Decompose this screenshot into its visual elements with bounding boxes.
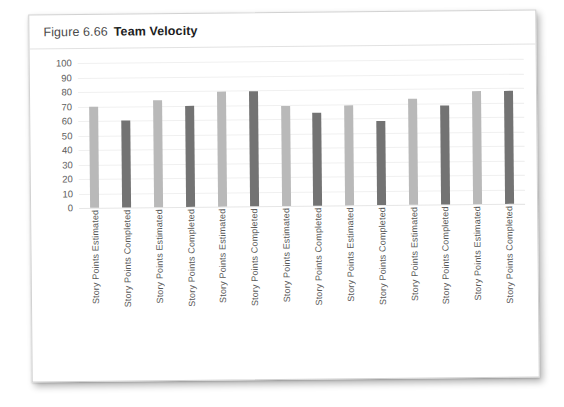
x-axis-label: Story Points Estimated xyxy=(90,210,101,304)
x-axis-labels: Story Points EstimatedStory Points Compl… xyxy=(79,206,526,360)
figure-caption-bar: Figure 6.66 Team Velocity xyxy=(29,11,535,50)
x-axis-label: Story Points Completed xyxy=(313,208,324,306)
x-label-slot: Story Points Estimated xyxy=(270,208,303,358)
x-axis-label: Story Points Estimated xyxy=(217,209,228,303)
bar[interactable] xyxy=(122,120,132,207)
y-axis-tick: 60 xyxy=(38,116,72,126)
bar-slot xyxy=(269,61,302,206)
y-axis-tick: 50 xyxy=(38,131,72,141)
y-axis-tick: 30 xyxy=(39,160,73,170)
x-axis-label: Story Points Estimated xyxy=(345,207,356,301)
x-axis-label: Story Points Completed xyxy=(249,208,260,306)
y-axis-tick: 70 xyxy=(38,102,72,112)
x-label-slot: Story Points Completed xyxy=(430,206,463,356)
bar[interactable] xyxy=(440,106,450,205)
bar-slot xyxy=(364,60,397,205)
figure-title: Team Velocity xyxy=(114,23,198,38)
x-label-slot: Story Points Estimated xyxy=(207,208,240,358)
bar-slot xyxy=(460,59,493,204)
bar[interactable] xyxy=(185,105,195,207)
bar-slot xyxy=(173,62,206,207)
chart-container: 1009080706050403020100 Story Points Esti… xyxy=(30,45,539,382)
y-axis-tick: 40 xyxy=(39,145,73,155)
y-axis: 1009080706050403020100 xyxy=(38,63,73,208)
x-axis-label: Story Points Estimated xyxy=(281,208,292,302)
x-axis-label: Story Points Estimated xyxy=(409,207,420,301)
x-axis-label: Story Points Completed xyxy=(440,206,451,304)
x-label-slot: Story Points Completed xyxy=(302,208,335,358)
bar-slot xyxy=(428,59,461,204)
y-axis-tick: 100 xyxy=(38,58,72,68)
bar[interactable] xyxy=(504,91,514,204)
x-label-slot: Story Points Completed xyxy=(175,209,208,359)
y-axis-tick: 20 xyxy=(39,174,73,184)
bar[interactable] xyxy=(313,113,323,206)
bar-slot xyxy=(492,59,525,204)
bar-slot xyxy=(333,60,366,205)
x-label-slot: Story Points Estimated xyxy=(398,207,431,357)
y-axis-tick: 10 xyxy=(39,189,73,199)
x-axis-label: Story Points Completed xyxy=(186,209,197,307)
bar-slot xyxy=(205,61,238,206)
bar-slot xyxy=(237,61,270,206)
x-axis-label: Story Points Completed xyxy=(377,207,388,305)
bar[interactable] xyxy=(249,92,259,207)
bar[interactable] xyxy=(408,99,418,205)
y-axis-tick: 0 xyxy=(39,203,73,213)
x-label-slot: Story Points Completed xyxy=(238,208,271,358)
bar[interactable] xyxy=(281,106,291,206)
bar-group xyxy=(78,59,525,208)
y-axis-tick: 90 xyxy=(38,73,72,83)
x-axis-label: Story Points Completed xyxy=(504,206,515,304)
x-label-slot: Story Points Estimated xyxy=(461,206,494,356)
x-axis-label: Story Points Estimated xyxy=(472,206,483,300)
bar-slot xyxy=(110,62,143,207)
y-axis-tick: 80 xyxy=(38,87,72,97)
x-label-slot: Story Points Completed xyxy=(493,206,526,356)
bar-slot xyxy=(141,62,174,207)
x-axis-label: Story Points Estimated xyxy=(154,209,165,303)
bar[interactable] xyxy=(153,100,163,207)
x-axis-label: Story Points Completed xyxy=(122,209,133,307)
bar[interactable] xyxy=(344,105,354,205)
x-label-slot: Story Points Completed xyxy=(366,207,399,357)
bar-slot xyxy=(301,61,334,206)
x-label-slot: Story Points Completed xyxy=(111,209,144,359)
bar[interactable] xyxy=(472,91,482,204)
x-label-slot: Story Points Estimated xyxy=(143,209,176,359)
figure-card: Figure 6.66 Team Velocity 10090807060504… xyxy=(28,10,540,383)
bar-slot xyxy=(78,63,111,208)
bar[interactable] xyxy=(90,106,100,208)
x-label-slot: Story Points Estimated xyxy=(79,210,112,360)
plot-area xyxy=(78,59,525,208)
bar[interactable] xyxy=(376,121,386,205)
bar[interactable] xyxy=(217,92,227,207)
figure-number: Figure 6.66 xyxy=(43,24,107,39)
bar-slot xyxy=(396,60,429,205)
x-label-slot: Story Points Estimated xyxy=(334,207,367,357)
